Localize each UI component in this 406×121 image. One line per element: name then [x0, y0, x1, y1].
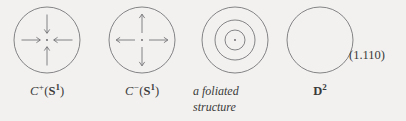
caption-c-plus-s1: C+(S1) [0, 84, 95, 99]
arrow-down-outward [139, 47, 144, 66]
outer-circle [287, 7, 353, 73]
arrow-down-inward [44, 15, 49, 34]
caption-paren-close: ) [60, 84, 64, 98]
figure-container: C+(S1) [0, 0, 406, 121]
arrow-up-inward [44, 47, 49, 66]
diagram-plain-circle [272, 0, 368, 80]
caption-symbol-c: C [125, 84, 133, 98]
arrow-left-outward [116, 37, 135, 42]
figure-foliated-structure: a foliated structure [187, 0, 283, 121]
caption-symbol-c: C [30, 84, 38, 98]
caption-paren-close: ) [155, 84, 159, 98]
equation-number: (1.110) [349, 48, 385, 63]
figure-c-plus-s1: C+(S1) [0, 0, 95, 121]
center-dot [234, 39, 236, 41]
caption-c-minus-s1: C−(S1) [94, 84, 190, 99]
arrow-left-inward [54, 37, 73, 42]
center-dot [46, 39, 48, 41]
caption-d-squared: D2 [272, 84, 368, 99]
caption-superscript-two: 2 [322, 82, 327, 92]
diagram-circle-outward-arrows [94, 0, 190, 80]
diagram-concentric-circles [187, 0, 283, 80]
arrow-up-outward [139, 14, 144, 33]
arrow-right-inward [22, 37, 41, 42]
diagram-circle-inward-arrows [0, 0, 95, 80]
center-dot [141, 39, 143, 41]
figure-c-minus-s1: C−(S1) [94, 0, 190, 121]
caption-symbol-d: D [313, 84, 322, 98]
arrow-right-outward [149, 37, 168, 42]
